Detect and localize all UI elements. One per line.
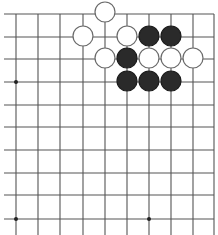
board-intersection[interactable] [73,185,93,205]
board-intersection[interactable] [95,163,115,183]
board-intersection[interactable] [28,117,48,137]
board-intersection[interactable] [183,140,203,160]
board-intersection[interactable] [95,140,115,160]
board-intersection[interactable] [95,95,115,115]
black-stone [117,48,137,68]
board-intersection[interactable] [6,140,26,160]
board-intersection[interactable] [204,95,218,115]
board-intersection[interactable] [28,49,48,69]
board-intersection[interactable] [139,163,159,183]
board-intersection[interactable] [28,185,48,205]
board-intersection[interactable] [6,95,26,115]
board-intersection[interactable] [117,117,137,137]
board-intersection[interactable] [73,95,93,115]
board-intersection[interactable] [73,209,93,229]
white-stone [95,2,115,22]
board-intersection[interactable] [204,209,218,229]
board-intersection[interactable] [204,72,218,92]
black-stone [139,26,159,46]
board-intersection[interactable] [73,140,93,160]
board-intersection[interactable] [73,72,93,92]
board-intersection[interactable] [50,209,70,229]
board-intersection[interactable] [117,140,137,160]
go-board-grid[interactable] [0,0,218,235]
board-intersection[interactable] [204,140,218,160]
board-intersection[interactable] [161,185,181,205]
board-intersection[interactable] [28,72,48,92]
board-intersection[interactable] [95,72,115,92]
white-stone [161,48,181,68]
board-intersection[interactable] [139,185,159,205]
board-intersection[interactable] [50,140,70,160]
board-intersection[interactable] [204,163,218,183]
board-intersection[interactable] [161,4,181,24]
board-intersection[interactable] [161,117,181,137]
board-intersection[interactable] [6,72,26,92]
white-stone [95,48,115,68]
board-intersection[interactable] [50,49,70,69]
board-intersection[interactable] [50,117,70,137]
black-stone [161,71,181,91]
white-stone [73,26,93,46]
board-intersection[interactable] [6,185,26,205]
board-intersection[interactable] [28,27,48,47]
board-intersection[interactable] [95,27,115,47]
board-intersection[interactable] [95,209,115,229]
board-intersection[interactable] [50,27,70,47]
board-intersection[interactable] [117,95,137,115]
board-intersection[interactable] [161,163,181,183]
board-intersection[interactable] [50,72,70,92]
black-stone [139,71,159,91]
board-intersection[interactable] [73,163,93,183]
board-intersection[interactable] [183,72,203,92]
board-intersection[interactable] [139,140,159,160]
board-intersection[interactable] [95,185,115,205]
board-intersection[interactable] [73,117,93,137]
board-intersection[interactable] [50,95,70,115]
board-intersection[interactable] [204,49,218,69]
board-intersection[interactable] [204,185,218,205]
board-intersection[interactable] [183,95,203,115]
board-intersection[interactable] [28,209,48,229]
board-intersection[interactable] [28,140,48,160]
board-intersection[interactable] [183,209,203,229]
board-intersection[interactable] [6,163,26,183]
board-intersection[interactable] [139,117,159,137]
board-intersection[interactable] [50,185,70,205]
board-intersection[interactable] [183,117,203,137]
board-intersection[interactable] [139,209,159,229]
board-intersection[interactable] [95,117,115,137]
board-intersection[interactable] [183,4,203,24]
board-intersection[interactable] [139,4,159,24]
board-intersection[interactable] [161,140,181,160]
board-intersection[interactable] [6,4,26,24]
board-intersection[interactable] [117,185,137,205]
board-intersection[interactable] [161,209,181,229]
board-intersection[interactable] [6,117,26,137]
board-intersection[interactable] [73,49,93,69]
board-intersection[interactable] [204,4,218,24]
board-intersection[interactable] [6,27,26,47]
board-intersection[interactable] [204,117,218,137]
white-stone [183,48,203,68]
board-intersection[interactable] [161,95,181,115]
board-intersection[interactable] [139,95,159,115]
board-intersection[interactable] [28,4,48,24]
go-board[interactable] [0,0,218,235]
white-stone [139,48,159,68]
board-intersection[interactable] [117,163,137,183]
board-intersection[interactable] [73,4,93,24]
board-intersection[interactable] [183,27,203,47]
white-stone [117,26,137,46]
board-intersection[interactable] [183,185,203,205]
board-intersection[interactable] [28,95,48,115]
board-intersection[interactable] [50,163,70,183]
board-intersection[interactable] [183,163,203,183]
board-intersection[interactable] [28,163,48,183]
board-intersection[interactable] [6,49,26,69]
board-intersection[interactable] [117,4,137,24]
board-intersection[interactable] [204,27,218,47]
board-intersection[interactable] [50,4,70,24]
board-intersection[interactable] [6,209,26,229]
board-intersection[interactable] [117,209,137,229]
